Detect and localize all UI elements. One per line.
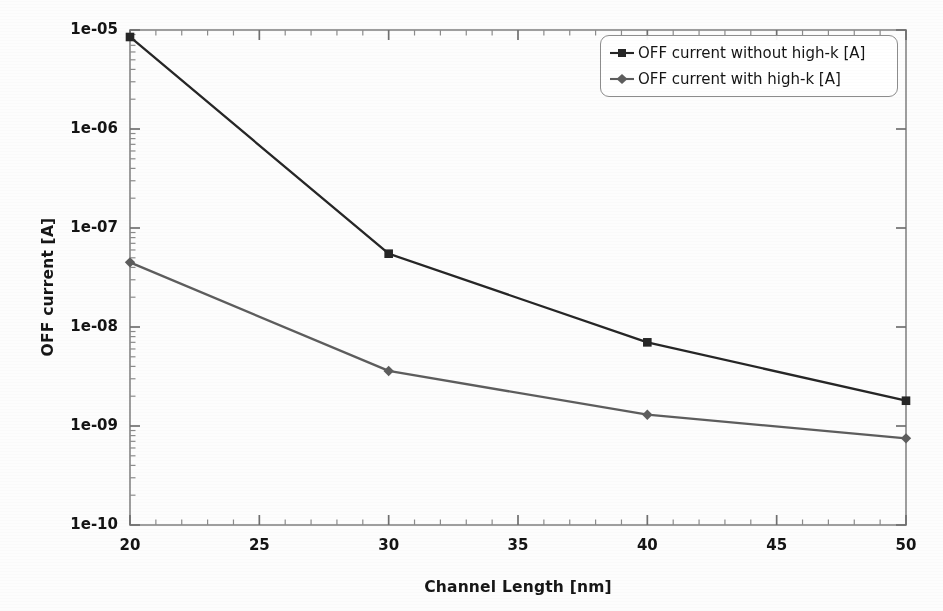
x-tick-label: 35: [488, 536, 548, 554]
data-point-marker: [901, 433, 911, 443]
y-tick-label: 1e-09: [34, 416, 118, 434]
legend-marker-diamond-icon: [609, 72, 635, 86]
series-line-2: [130, 262, 906, 438]
data-point-marker: [125, 257, 135, 267]
y-tick-label: 1e-06: [34, 119, 118, 137]
data-point-marker: [126, 33, 135, 42]
x-tick-label: 50: [876, 536, 936, 554]
x-tick-label: 45: [747, 536, 807, 554]
legend-label: OFF current without high-k [A]: [638, 44, 865, 62]
chart-figure: 1e-051e-061e-071e-081e-091e-10 202530354…: [0, 0, 943, 611]
legend-marker-square-icon: [609, 46, 635, 60]
legend-item-without-high-k[interactable]: OFF current without high-k [A]: [609, 40, 865, 66]
data-point-marker: [642, 410, 652, 420]
legend[interactable]: OFF current without high-k [A] OFF curre…: [600, 35, 898, 97]
x-tick-label: 20: [100, 536, 160, 554]
legend-label: OFF current with high-k [A]: [638, 70, 841, 88]
y-axis-tick-labels: 1e-051e-061e-071e-081e-091e-10: [0, 0, 118, 611]
axes-frame: [130, 30, 906, 525]
data-point-marker: [643, 338, 652, 347]
x-tick-label: 25: [229, 536, 289, 554]
plot-frame: [130, 30, 906, 525]
y-tick-label: 1e-05: [34, 20, 118, 38]
y-tick-label: 1e-10: [34, 515, 118, 533]
x-axis-title: Channel Length [nm]: [130, 578, 906, 596]
x-tick-label: 40: [617, 536, 677, 554]
y-axis-title: OFF current [A]: [39, 177, 57, 397]
axis-ticks: [130, 30, 906, 525]
legend-item-with-high-k[interactable]: OFF current with high-k [A]: [609, 66, 841, 92]
data-point-marker: [902, 396, 911, 405]
data-point-marker: [384, 249, 393, 258]
data-point-marker: [383, 366, 393, 376]
x-tick-label: 30: [359, 536, 419, 554]
